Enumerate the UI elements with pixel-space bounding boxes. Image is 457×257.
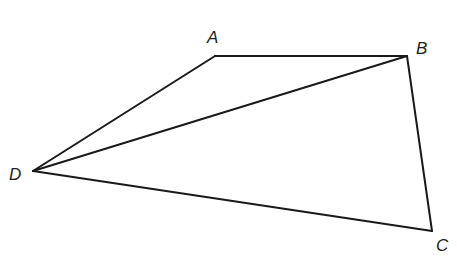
vertex-label-b: B	[416, 39, 427, 58]
diagonal-db	[33, 56, 407, 171]
edge-bc	[407, 56, 432, 231]
vertex-label-a: A	[206, 28, 218, 47]
edge-cd	[33, 171, 432, 231]
vertex-label-d: D	[9, 165, 21, 184]
edge-da	[33, 56, 215, 171]
vertex-label-c: C	[436, 236, 449, 255]
quadrilateral-diagram: A B C D	[0, 0, 457, 257]
